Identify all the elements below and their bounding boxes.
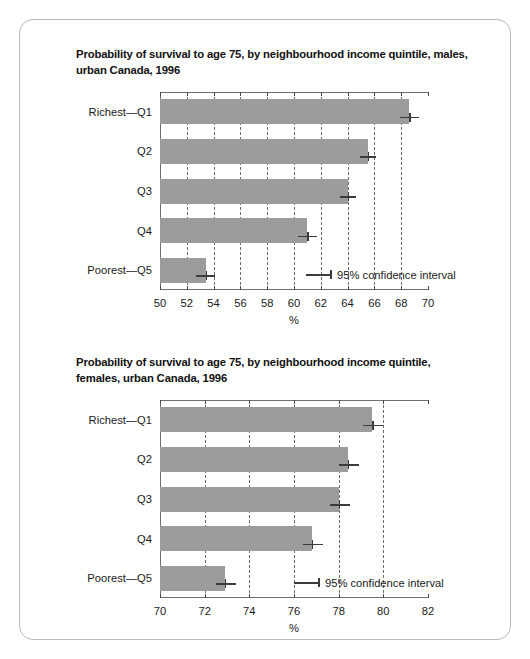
bar — [160, 566, 225, 591]
category-label: Richest—Q1 — [89, 414, 152, 426]
error-bar-cap — [312, 540, 314, 549]
error-bar-cap — [409, 113, 411, 122]
axis-tick — [187, 92, 188, 96]
axis-tick — [160, 400, 161, 404]
axis-tick — [294, 400, 295, 404]
error-bar-cap — [339, 500, 341, 509]
bar — [160, 179, 348, 204]
axis-tick — [160, 594, 161, 598]
error-bar-cap — [225, 579, 227, 588]
category-label: Q3 — [137, 185, 152, 197]
bar — [160, 258, 206, 283]
axis-tick — [428, 594, 429, 598]
x-tick-label: 60 — [288, 297, 300, 309]
bar — [160, 447, 348, 472]
error-bar-cap — [348, 192, 350, 201]
bar — [160, 526, 312, 551]
x-tick-label: 54 — [207, 297, 219, 309]
category-label: Q4 — [137, 225, 152, 237]
axis-tick — [401, 286, 402, 290]
axis-tick — [205, 594, 206, 598]
category-label: Q4 — [137, 533, 152, 545]
axis-tick — [294, 286, 295, 290]
x-tick-label: 78 — [332, 605, 344, 617]
legend-errorbar-icon — [306, 274, 332, 276]
error-bar-cap — [307, 232, 309, 241]
x-tick-label: 58 — [261, 297, 273, 309]
axis-tick — [267, 286, 268, 290]
axis-tick — [160, 92, 161, 96]
axis-tick — [249, 400, 250, 404]
axis-tick — [428, 400, 429, 404]
x-tick-label: 56 — [234, 297, 246, 309]
x-tick-label: 72 — [198, 605, 210, 617]
category-label: Q2 — [137, 453, 152, 465]
chart-title-males: Probability of survival to age 75, by ne… — [76, 46, 476, 78]
axis-tick — [428, 286, 429, 290]
x-tick-label: 64 — [341, 297, 353, 309]
x-tick-label: 74 — [243, 605, 255, 617]
error-bar-cap — [206, 271, 208, 280]
x-tick-label: 68 — [395, 297, 407, 309]
legend-label: 95% confidence interval — [337, 269, 456, 281]
category-label: Poorest—Q5 — [87, 264, 152, 276]
x-tick-label: 52 — [181, 297, 193, 309]
axis-tick — [249, 594, 250, 598]
axis-tick — [428, 92, 429, 96]
axis-tick — [214, 286, 215, 290]
x-tick-label: 82 — [422, 605, 434, 617]
bar — [160, 218, 307, 243]
axis-tick — [383, 594, 384, 598]
x-tick-label: 66 — [368, 297, 380, 309]
chart-title-females: Probability of survival to age 75, by ne… — [76, 354, 476, 386]
gridline — [383, 400, 384, 598]
axis-tick — [339, 594, 340, 598]
x-axis-title: % — [289, 622, 299, 634]
error-bar-cap — [372, 421, 374, 430]
axis-tick — [160, 286, 161, 290]
axis-tick — [401, 92, 402, 96]
figure-frame: Probability of survival to age 75, by ne… — [19, 19, 511, 640]
axis-tick — [187, 286, 188, 290]
x-tick-label: 70 — [422, 297, 434, 309]
bar — [160, 407, 372, 432]
legend: 95% confidence interval — [306, 269, 456, 281]
axis-tick — [348, 286, 349, 290]
x-axis-title: % — [289, 314, 299, 326]
bar — [160, 99, 409, 124]
axis-tick — [374, 92, 375, 96]
x-tick-label: 62 — [315, 297, 327, 309]
category-label: Q2 — [137, 145, 152, 157]
axis-tick — [321, 92, 322, 96]
error-bar-cap — [368, 152, 370, 161]
x-tick-label: 80 — [377, 605, 389, 617]
axis-tick — [205, 400, 206, 404]
category-label: Richest—Q1 — [89, 106, 152, 118]
legend-errorbar-icon — [294, 582, 320, 584]
x-tick-label: 70 — [154, 605, 166, 617]
axis-tick — [294, 594, 295, 598]
x-tick-label: 50 — [154, 297, 166, 309]
axis-tick — [339, 400, 340, 404]
axis-tick — [267, 92, 268, 96]
bar — [160, 139, 368, 164]
axis-tick — [240, 286, 241, 290]
axis-tick — [294, 92, 295, 96]
plot-area-females: 70727476788082Richest—Q1Q2Q3Q4Poorest—Q5… — [160, 400, 428, 598]
axis-tick — [321, 286, 322, 290]
category-label: Poorest—Q5 — [87, 572, 152, 584]
axis-tick — [383, 400, 384, 404]
legend: 95% confidence interval — [294, 577, 444, 589]
x-tick-label: 76 — [288, 605, 300, 617]
axis-tick — [348, 92, 349, 96]
legend-label: 95% confidence interval — [325, 577, 444, 589]
error-bar-cap — [348, 460, 350, 469]
bar — [160, 487, 339, 512]
plot-area-males: 5052545658606264666870Richest—Q1Q2Q3Q4Po… — [160, 92, 428, 290]
category-label: Q3 — [137, 493, 152, 505]
axis-tick — [374, 286, 375, 290]
axis-tick — [214, 92, 215, 96]
axis-tick — [240, 92, 241, 96]
